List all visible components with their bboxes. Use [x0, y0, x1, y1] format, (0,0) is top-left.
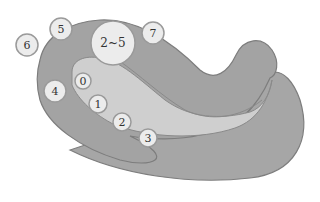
- marker-label-3: 3: [145, 132, 152, 145]
- diagram-canvas: [0, 0, 320, 202]
- marker-label-6: 6: [24, 39, 31, 52]
- marker-label-2-5: 2~5: [100, 36, 125, 50]
- marker-label-5: 5: [58, 23, 65, 36]
- marker-label-0: 0: [80, 75, 87, 88]
- marker-label-1: 1: [95, 98, 102, 111]
- marker-label-7: 7: [150, 27, 157, 40]
- marker-label-4: 4: [52, 85, 59, 98]
- marker-label-2: 2: [119, 116, 126, 129]
